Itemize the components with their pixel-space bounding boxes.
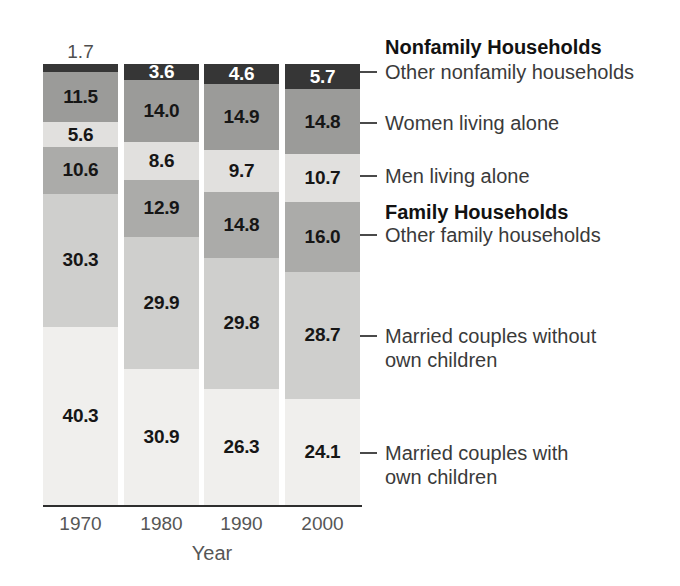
legend-label: Women living alone <box>385 111 559 135</box>
legend-entry-women-living-alone: Women living alone <box>360 111 559 135</box>
segment-value-label: 9.7 <box>198 160 285 182</box>
household-composition-chart: 1.740.330.310.65.611.5197030.929.912.98.… <box>0 0 680 586</box>
segment-value-label: 26.3 <box>198 436 285 458</box>
segment-value-label: 30.9 <box>118 426 205 448</box>
segment-other-nonfamily-households: 3.6 <box>124 64 199 80</box>
segment-value-label: 10.6 <box>37 159 124 181</box>
segment-value-label: 30.3 <box>37 249 124 271</box>
segment-value-label: 5.6 <box>37 124 124 146</box>
segment-married-couples-with-own-children: 26.3 <box>204 389 279 505</box>
segment-married-couples-with-own-children: 24.1 <box>285 399 360 505</box>
leader-dash-icon <box>360 335 377 337</box>
segment-women-living-alone: 14.0 <box>124 80 199 142</box>
segment-other-family-households: 14.8 <box>204 192 279 257</box>
segment-married-couples-with-own-children: 30.9 <box>124 369 199 505</box>
segment-other-nonfamily-households: 5.7 <box>285 64 360 89</box>
segment-value-label: 16.0 <box>279 226 366 248</box>
segment-value-label: 14.9 <box>198 106 285 128</box>
segment-value-label: 4.6 <box>198 63 285 85</box>
segment-married-couples-with-own-children: 40.3 <box>43 327 118 505</box>
leader-dash-icon <box>360 175 377 177</box>
bar-1980: 30.929.912.98.614.03.6 <box>124 64 199 505</box>
segment-value-label: 29.9 <box>118 292 205 314</box>
legend-label: Married couples with own children <box>385 441 568 489</box>
segment-married-couples-without-own-children: 29.8 <box>204 258 279 389</box>
segment-other-nonfamily-households <box>43 64 118 71</box>
segment-men-living-alone: 9.7 <box>204 150 279 193</box>
segment-married-couples-without-own-children: 30.3 <box>43 194 118 328</box>
segment-men-living-alone: 10.7 <box>285 154 360 201</box>
segment-value-label: 10.7 <box>279 167 366 189</box>
leader-dash-icon <box>360 122 377 124</box>
bar-2000: 24.128.716.010.714.85.7 <box>285 64 360 505</box>
legend-label: Married couples without own children <box>385 324 596 372</box>
legend-header-nonfamily: Nonfamily Households <box>385 35 602 59</box>
segment-other-family-households: 16.0 <box>285 202 360 273</box>
legend-entry-men-living-alone: Men living alone <box>360 164 530 188</box>
legend-label: Other family households <box>385 223 601 247</box>
segment-women-living-alone: 14.8 <box>285 89 360 154</box>
segment-other-family-households: 10.6 <box>43 147 118 194</box>
segment-value-label-outside: 1.7 <box>43 41 118 63</box>
segment-value-label: 14.0 <box>118 100 205 122</box>
x-axis-title: Year <box>52 542 372 565</box>
segment-value-label: 14.8 <box>198 214 285 236</box>
leader-dash-icon <box>360 234 377 236</box>
segment-value-label: 14.8 <box>279 111 366 133</box>
legend-entry-married-with-children: Married couples with own children <box>360 441 568 489</box>
legend-label: Other nonfamily households <box>385 60 634 84</box>
segment-value-label: 12.9 <box>118 197 205 219</box>
segment-other-family-households: 12.9 <box>124 180 199 237</box>
x-tick-label-1970: 1970 <box>43 513 118 535</box>
segment-men-living-alone: 8.6 <box>124 142 199 180</box>
segment-value-label: 11.5 <box>37 86 124 108</box>
x-axis-line <box>43 505 362 507</box>
leader-dash-icon <box>360 452 377 454</box>
legend-header-family: Family Households <box>385 200 568 224</box>
segment-value-label: 40.3 <box>37 405 124 427</box>
segment-women-living-alone: 14.9 <box>204 84 279 150</box>
segment-other-nonfamily-households: 4.6 <box>204 64 279 84</box>
legend-entry-other-nonfamily-households: Other nonfamily households <box>360 60 634 84</box>
segment-married-couples-without-own-children: 28.7 <box>285 272 360 399</box>
segment-value-label: 8.6 <box>118 150 205 172</box>
bar-1990: 26.329.814.89.714.94.6 <box>204 64 279 505</box>
legend-label: Men living alone <box>385 164 530 188</box>
segment-value-label: 24.1 <box>279 441 366 463</box>
bar-1970: 40.330.310.65.611.5 <box>43 64 118 505</box>
x-tick-label-1990: 1990 <box>204 513 279 535</box>
segment-value-label: 29.8 <box>198 312 285 334</box>
segment-value-label: 3.6 <box>118 61 205 83</box>
leader-dash-icon <box>360 71 377 73</box>
segment-married-couples-without-own-children: 29.9 <box>124 237 199 369</box>
segment-men-living-alone: 5.6 <box>43 122 118 147</box>
segment-value-label: 5.7 <box>279 66 366 88</box>
legend-entry-other-family-households: Other family households <box>360 223 601 247</box>
x-tick-label-1980: 1980 <box>124 513 199 535</box>
segment-value-label: 28.7 <box>279 324 366 346</box>
legend-entry-married-without-children: Married couples without own children <box>360 324 596 372</box>
segment-women-living-alone: 11.5 <box>43 72 118 123</box>
x-tick-label-2000: 2000 <box>285 513 360 535</box>
